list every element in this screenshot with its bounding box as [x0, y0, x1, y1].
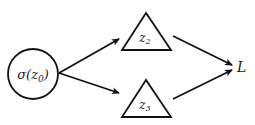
node-label-sigma-z0: σ(z0) — [17, 67, 49, 84]
diagram-canvas: σ(z0) z2 z3 L — [0, 0, 255, 125]
edge-z3-to-L — [173, 70, 232, 99]
node-sigma-z0: σ(z0) — [8, 49, 58, 99]
node-label-L: L — [236, 59, 246, 75]
edge-sigma-to-z2 — [59, 39, 119, 73]
edge-z2-to-L — [173, 36, 232, 65]
node-z3: z3 — [122, 80, 171, 117]
edge-sigma-to-z3 — [59, 73, 119, 93]
node-z2: z2 — [122, 13, 171, 50]
